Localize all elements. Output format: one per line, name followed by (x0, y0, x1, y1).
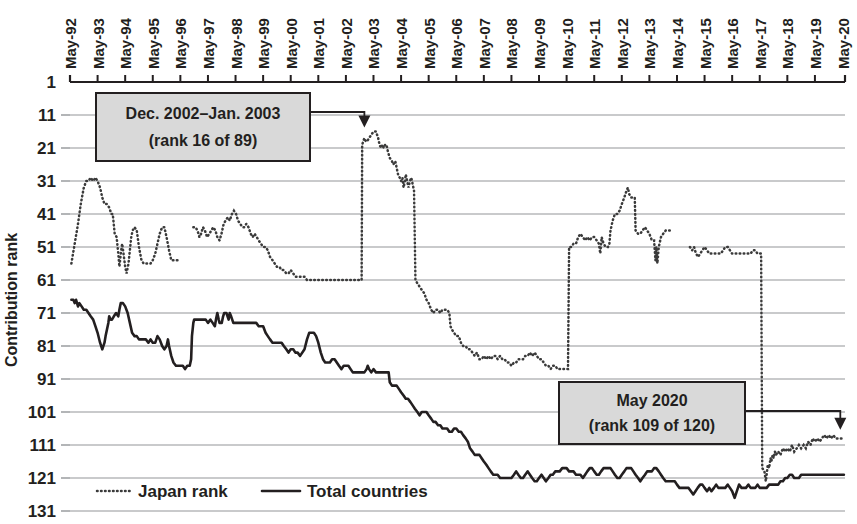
x-tick-label: May-08 (503, 18, 520, 69)
y-axis-title: Contribution rank (3, 233, 20, 367)
annotation-2020: May 2020 (rank 109 of 120) (559, 382, 846, 444)
annotation-2002-line2: (rank 16 of 89) (149, 132, 257, 149)
x-tick-label: May-12 (614, 18, 631, 69)
y-tick-label: 61 (37, 271, 56, 290)
x-tick-label: May-96 (172, 18, 189, 69)
x-tick-label: May-06 (448, 18, 465, 69)
x-tick-label: May-09 (531, 18, 548, 69)
x-tick-label: May-02 (338, 18, 355, 69)
x-tick-label: May-93 (90, 18, 107, 69)
annotation-2002-leader (310, 112, 364, 117)
chart-container: Contribution rank 1112131415161718191101… (0, 0, 857, 524)
y-tick-label: 11 (38, 106, 56, 125)
annotation-2020-line1: May 2020 (616, 392, 687, 409)
y-tick-label: 1 (47, 73, 56, 92)
annotation-2020-arrowhead (834, 418, 846, 430)
x-tick-label: May-98 (228, 18, 245, 69)
y-tick-label: 81 (37, 337, 56, 356)
y-tickmarks (61, 115, 70, 511)
annotation-2002-arrowhead (358, 116, 370, 128)
x-axis-line (70, 75, 845, 82)
y-axis-title-group: Contribution rank (3, 233, 20, 367)
x-tick-label: May-04 (393, 17, 410, 69)
x-tick-label: May-07 (476, 18, 493, 69)
y-tick-label: 131 (28, 502, 56, 521)
x-tick-label: May-15 (697, 18, 714, 69)
x-tick-label: May-92 (62, 18, 79, 69)
y-tick-label: 21 (37, 139, 56, 158)
x-tick-label: May-16 (724, 18, 741, 69)
gridlines (70, 115, 845, 511)
x-tick-label: May-03 (365, 18, 382, 69)
legend-label-total-countries: Total countries (307, 482, 428, 501)
annotation-2020-line2: (rank 109 of 120) (589, 417, 715, 434)
x-tick-label: May-97 (200, 18, 217, 69)
x-tick-label: May-20 (835, 18, 852, 69)
legend-label-japan-rank: Japan rank (138, 482, 228, 501)
x-tick-label: May-19 (807, 18, 824, 69)
y-tick-labels: 1112131415161718191101111121131 (28, 73, 56, 521)
annotation-2002-box (96, 93, 310, 161)
x-tick-labels: May-92May-93May-94May-95May-96May-97May-… (62, 17, 852, 69)
x-tick-label: May-94 (117, 17, 134, 69)
contribution-rank-chart: Contribution rank 1112131415161718191101… (0, 0, 857, 524)
y-tick-label: 51 (37, 238, 56, 257)
y-tick-label: 111 (30, 436, 57, 455)
x-tick-label: May-99 (255, 18, 272, 69)
x-tick-label: May-13 (641, 18, 658, 69)
x-tick-label: May-11 (586, 19, 603, 69)
annotation-2002-line1: Dec. 2002–Jan. 2003 (126, 105, 281, 122)
y-tick-label: 91 (37, 370, 56, 389)
annotation-2002: Dec. 2002–Jan. 2003 (rank 16 of 89) (96, 93, 370, 161)
x-tick-label: May-95 (145, 18, 162, 69)
x-tick-label: May-00 (283, 18, 300, 69)
x-tick-label: May-05 (421, 18, 438, 69)
x-tick-label: May-18 (779, 18, 796, 69)
y-tick-label: 31 (37, 172, 56, 191)
y-tick-label: 101 (28, 403, 56, 422)
y-tick-label: 71 (37, 304, 56, 323)
y-tick-label: 121 (28, 469, 56, 488)
legend: Japan rank Total countries (97, 482, 428, 501)
y-tick-label: 41 (37, 205, 56, 224)
x-tick-label: May-01 (310, 18, 327, 69)
x-tick-label: May-14 (669, 17, 686, 69)
x-tick-label: May-10 (559, 18, 576, 69)
x-tick-label: May-17 (752, 18, 769, 69)
